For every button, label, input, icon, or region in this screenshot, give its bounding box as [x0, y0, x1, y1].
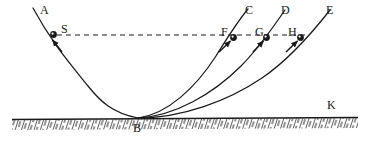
- valley-bottom-label-b: B: [133, 122, 141, 134]
- start-point-label-s: S: [61, 23, 68, 35]
- track-label-e: E: [326, 4, 333, 16]
- ball-f-highlight: [232, 36, 234, 38]
- velocity-arrow-group: [53, 40, 298, 52]
- velocity-arrow-h: [286, 41, 298, 52]
- track-group: [33, 8, 330, 118]
- point-label-f: F: [221, 26, 228, 38]
- velocity-arrow-s: [53, 40, 63, 52]
- physics-diagram-figure: A S C D E F G H B K: [0, 0, 370, 147]
- point-label-g: G: [255, 26, 264, 38]
- ground-label-k: K: [327, 99, 336, 111]
- ball-g: [263, 34, 270, 41]
- point-label-h: H: [288, 26, 297, 38]
- track-label-d: D: [281, 4, 290, 16]
- ball-g-highlight: [265, 36, 267, 38]
- velocity-arrow-g: [253, 41, 264, 52]
- ball-group: [50, 31, 304, 41]
- track-label-a: A: [40, 4, 49, 16]
- track-path-a: [33, 8, 138, 118]
- track-path-e: [138, 10, 330, 118]
- ball-f: [230, 34, 237, 41]
- track-label-c: C: [245, 4, 253, 16]
- diagram-canvas: [0, 0, 370, 147]
- ball-h-highlight: [299, 36, 301, 38]
- ball-h: [297, 34, 304, 41]
- ground-group: [12, 118, 358, 131]
- ball-s: [50, 31, 57, 38]
- ball-s-highlight: [52, 33, 54, 35]
